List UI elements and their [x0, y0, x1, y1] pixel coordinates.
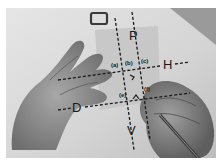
label-c: (c): [141, 58, 148, 64]
photo-scene: [6, 8, 216, 158]
label-H: H: [163, 58, 172, 71]
label-e: (e): [119, 92, 126, 98]
label-P: P: [129, 29, 138, 42]
photograph: [6, 8, 216, 158]
figure-frame: P H D V (a) (b) (c) (e) (f): [0, 0, 222, 165]
label-b: (b): [125, 60, 133, 66]
label-a: (a): [111, 62, 118, 68]
label-f: (f): [144, 86, 150, 92]
label-D: D: [72, 101, 81, 114]
label-V: V: [127, 124, 136, 137]
